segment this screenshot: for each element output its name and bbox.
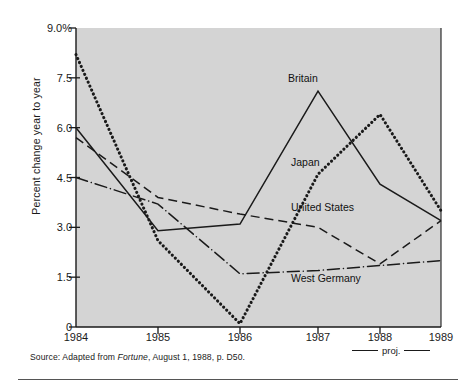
bottom-divider bbox=[18, 379, 458, 380]
plot-area bbox=[0, 0, 476, 388]
series-label-japan: Japan bbox=[291, 156, 320, 168]
projection-line-left bbox=[352, 350, 378, 351]
source-suffix: , August 1, 1988, p. D50. bbox=[148, 352, 245, 362]
source-prefix: Source: Adapted from bbox=[30, 352, 118, 362]
projection-label: proj. bbox=[382, 345, 400, 356]
series-label-britain: Britain bbox=[288, 72, 318, 84]
projection-annotation: proj. bbox=[352, 345, 430, 356]
projection-line-right bbox=[404, 350, 430, 351]
series-label-united-states: United States bbox=[291, 201, 354, 213]
source-note: Source: Adapted from Fortune, August 1, … bbox=[30, 352, 245, 362]
series-label-west-germany: West Germany bbox=[291, 272, 361, 284]
source-publication: Fortune bbox=[118, 352, 148, 362]
figure-container: Percent change year to year 9.0% 7.5 6.0… bbox=[0, 0, 476, 388]
